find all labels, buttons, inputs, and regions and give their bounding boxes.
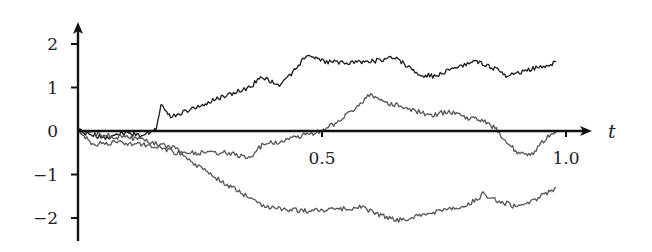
y-ticks: 210−1−2 [33, 34, 78, 228]
x-ticks: 0.51.0 [308, 131, 579, 168]
y-tick-label: −2 [33, 208, 58, 228]
series-line-path-1 [78, 55, 556, 139]
x-tick-label: 1.0 [552, 148, 579, 168]
y-tick-label: −1 [33, 165, 58, 185]
x-tick-label: 0.5 [308, 148, 335, 168]
y-tick-label: 0 [47, 121, 58, 141]
y-tick-label: 1 [47, 78, 58, 98]
brownian-paths-chart: 210−1−2 0.51.0 t [0, 0, 652, 252]
x-axis-label: t [608, 120, 616, 142]
series-paths [78, 55, 556, 222]
y-tick-label: 2 [47, 34, 58, 54]
